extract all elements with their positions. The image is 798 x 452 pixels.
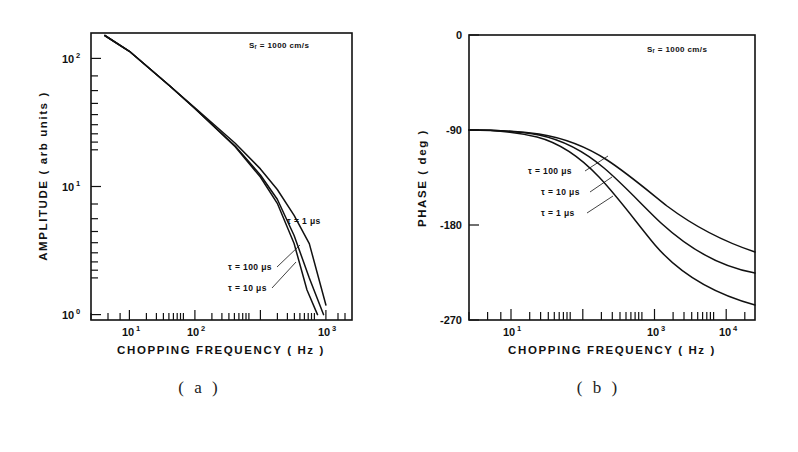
x-tick-label-1: 10	[187, 326, 199, 338]
x-tick-exp-0: 1	[136, 324, 140, 333]
x-axis-ticks-b	[469, 309, 745, 320]
x-axis-ticks-a	[91, 310, 345, 320]
caption-panel-b: ( b )	[399, 378, 798, 398]
annotation-surface-recombination-b: Sᵣ = 1000 cm/s	[647, 45, 707, 54]
x-tick-label-2: 10	[719, 326, 731, 338]
x-tick-exp-1: 3	[661, 324, 665, 333]
x-tick-exp-2: 3	[332, 324, 336, 333]
panel-b-phase: 10 1 10 3 10 4 0 -90 -180 -270 CHOPPING …	[399, 0, 798, 452]
x-tick-exp-2: 4	[733, 324, 738, 333]
leader-tau-1us-b	[587, 196, 613, 213]
curve-label-tau-10us-a: τ = 10 μs	[228, 283, 267, 293]
x-tick-label-2: 10	[318, 326, 330, 338]
curve-label-tau-1us-b: τ = 1 μs	[541, 208, 575, 218]
x-tick-labels-a: 10 1 10 2 10 3	[122, 324, 336, 338]
plot-frame-a	[91, 33, 352, 320]
curve-tau-100us-a	[105, 36, 324, 315]
panel-a-amplitude: 10 1 10 2 10 3 10 2 10 1 10 0 CHOPPING F…	[0, 0, 399, 452]
y-tick-label-3: -270	[440, 314, 462, 326]
x-tick-exp-1: 2	[201, 324, 205, 333]
y-tick-label-1: 10	[62, 181, 74, 193]
curve-label-tau-100us-b: τ = 100 μs	[528, 166, 572, 176]
y-axis-title-a: AMPLITUDE ( arb units )	[37, 91, 49, 261]
curve-label-tau-100us-a: τ = 100 μs	[228, 262, 272, 272]
x-tick-label-0: 10	[122, 326, 134, 338]
x-tick-labels-b: 10 1 10 3 10 4	[503, 324, 738, 338]
y-tick-exp-1: 1	[76, 179, 80, 188]
amplitude-plot: 10 1 10 2 10 3 10 2 10 1 10 0 CHOPPING F…	[0, 0, 399, 378]
x-axis-title-a: CHOPPING FREQUENCY ( Hz )	[117, 344, 325, 356]
y-tick-label-0: 0	[456, 29, 462, 41]
y-tick-label-0: 10	[62, 53, 74, 65]
curve-tau-10us-b	[469, 130, 755, 273]
x-tick-label-0: 10	[503, 326, 515, 338]
y-tick-exp-2: 0	[76, 307, 80, 316]
curve-label-tau-10us-b: τ = 10 μs	[541, 187, 580, 197]
y-tick-exp-0: 2	[76, 51, 80, 60]
y-tick-label-1: -90	[446, 124, 462, 136]
y-axis-ticks-a	[91, 58, 101, 314]
x-tick-label-1: 10	[647, 326, 659, 338]
annotation-surface-recombination-a: Sᵣ = 1000 cm/s	[249, 41, 309, 50]
y-tick-labels-b: 0 -90 -180 -270	[440, 29, 462, 326]
y-axis-ticks-b	[469, 35, 479, 320]
leader-tau-100us-a	[277, 245, 300, 267]
y-tick-labels-a: 10 2 10 1 10 0	[62, 51, 80, 321]
x-axis-title-b: CHOPPING FREQUENCY ( Hz )	[508, 344, 716, 356]
y-tick-label-2: 10	[62, 309, 74, 321]
y-tick-label-2: -180	[440, 219, 462, 231]
y-axis-title-b: PHASE ( deg )	[416, 129, 428, 227]
plot-frame-b	[469, 35, 755, 320]
curve-tau-1us-b	[469, 130, 755, 305]
caption-panel-a: ( a )	[0, 378, 399, 398]
x-tick-exp-0: 1	[517, 324, 521, 333]
curve-tau-1us-a	[105, 36, 326, 306]
leader-tau-10us-a	[272, 262, 296, 288]
figure-root: 10 1 10 2 10 3 10 2 10 1 10 0 CHOPPING F…	[0, 0, 798, 452]
phase-plot: 10 1 10 3 10 4 0 -90 -180 -270 CHOPPING …	[399, 0, 798, 378]
curve-label-tau-1us-a: τ = 1 μs	[287, 216, 321, 226]
